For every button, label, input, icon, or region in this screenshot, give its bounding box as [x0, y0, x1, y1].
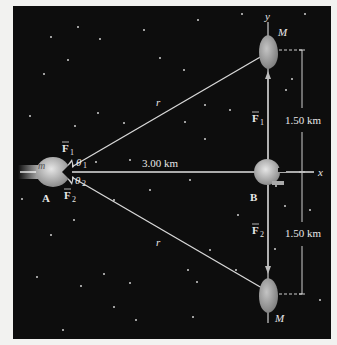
- r-line-lower: [63, 172, 262, 288]
- mass-M-top-label: M: [277, 26, 288, 38]
- svg-text:F: F: [64, 189, 71, 201]
- gravitational-force-diagram: x y r r m A F 1 F 2 θ 1 θ 2 3.00 km: [0, 0, 337, 345]
- distance-upper-label: 1.50 km: [285, 114, 322, 126]
- svg-text:1: 1: [260, 118, 264, 127]
- distance-3km-label: 3.00 km: [142, 157, 179, 169]
- dimension-upper: [279, 50, 305, 172]
- y-axis-label: y: [264, 10, 270, 22]
- mass-m-label: m: [38, 160, 45, 171]
- force-F2-label-A: F 2: [64, 189, 76, 204]
- theta2-label: θ 2: [75, 174, 86, 188]
- asteroid-M-top: [259, 35, 278, 69]
- mass-M-bottom-label: M: [274, 312, 285, 324]
- svg-text:2: 2: [82, 179, 86, 188]
- svg-text:2: 2: [72, 195, 76, 204]
- svg-text:1: 1: [83, 161, 87, 170]
- svg-text:F: F: [252, 112, 259, 124]
- svg-text:θ: θ: [75, 174, 81, 186]
- r-label-upper: r: [156, 96, 161, 108]
- point-A-label: A: [42, 192, 50, 204]
- force-F1-label-A: F 1: [62, 142, 74, 157]
- svg-text:F: F: [62, 142, 69, 154]
- asteroid-M-bottom: [259, 278, 278, 313]
- svg-text:2: 2: [260, 230, 264, 239]
- distance-lower-label: 1.50 km: [285, 227, 322, 239]
- svg-text:θ: θ: [76, 156, 82, 168]
- svg-text:F: F: [252, 224, 259, 236]
- x-axis-label: x: [317, 166, 323, 178]
- svg-text:1: 1: [70, 148, 74, 157]
- r-line-upper: [63, 56, 262, 172]
- point-B-label: B: [250, 191, 258, 203]
- theta1-label: θ 1: [76, 156, 87, 170]
- force-F2-label-B: F 2: [252, 224, 264, 239]
- r-label-lower: r: [156, 236, 161, 248]
- force-F1-label-B: F 1: [252, 112, 264, 127]
- body-B: [254, 159, 286, 185]
